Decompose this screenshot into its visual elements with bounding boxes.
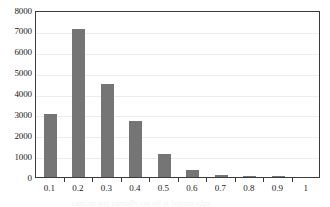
y-axis-tick-label: 0 — [0, 174, 32, 183]
y-axis-tick-label: 3000 — [0, 111, 32, 120]
bar-slot — [36, 10, 65, 177]
bars-layer — [36, 12, 319, 177]
plot-area — [35, 11, 320, 178]
y-axis: 010002000300040005000600070008000 — [0, 0, 32, 207]
x-axis-tick — [292, 178, 293, 182]
x-axis-tick-label: 0.9 — [263, 183, 292, 194]
bar — [72, 29, 85, 177]
y-axis-tick-label: 8000 — [0, 7, 32, 16]
bar-slot — [93, 10, 122, 177]
figure-caption-text: caption text partially cut off at bottom… — [72, 200, 282, 207]
x-axis-tick — [92, 178, 93, 182]
x-axis: 0.10.20.30.40.50.60.70.80.91 — [35, 183, 320, 196]
x-axis-tick — [206, 178, 207, 182]
x-axis-tick-label: 1 — [292, 183, 321, 194]
figure-caption: caption text partially cut off at bottom… — [72, 200, 282, 207]
bar — [129, 121, 142, 177]
bar-slot — [236, 10, 265, 177]
x-axis-tick-label: 0.8 — [235, 183, 264, 194]
x-axis-tick-label: 0.3 — [92, 183, 121, 194]
y-axis-tick-label: 1000 — [0, 153, 32, 162]
x-axis-ticks — [35, 178, 320, 182]
bar — [186, 170, 199, 177]
bar-slot — [293, 10, 322, 177]
bar-slot — [150, 10, 179, 177]
bar — [215, 175, 228, 177]
x-axis-tick — [121, 178, 122, 182]
x-axis-tick-label: 0.6 — [178, 183, 207, 194]
bar — [44, 114, 57, 177]
y-axis-tick-label: 4000 — [0, 90, 32, 99]
bar-slot — [122, 10, 151, 177]
x-axis-tick-label: 0.5 — [149, 183, 178, 194]
y-axis-tick-label: 7000 — [0, 27, 32, 36]
x-axis-tick — [64, 178, 65, 182]
x-axis-tick-label: 0.1 — [35, 183, 64, 194]
bar-slot — [264, 10, 293, 177]
bar — [101, 84, 114, 177]
bar-chart: 010002000300040005000600070008000 0.10.2… — [0, 0, 330, 207]
bar — [272, 176, 285, 177]
y-axis-tick-label: 2000 — [0, 132, 32, 141]
x-axis-tick — [263, 178, 264, 182]
y-axis-tick-label: 5000 — [0, 69, 32, 78]
y-axis-tick-label: 6000 — [0, 48, 32, 57]
bar-slot — [207, 10, 236, 177]
x-axis-tick-label: 0.7 — [206, 183, 235, 194]
bar — [158, 154, 171, 177]
x-axis-tick-label: 0.2 — [64, 183, 93, 194]
bar-slot — [179, 10, 208, 177]
x-axis-tick — [235, 178, 236, 182]
x-axis-tick-label: 0.4 — [121, 183, 150, 194]
x-axis-tick — [178, 178, 179, 182]
x-axis-tick — [149, 178, 150, 182]
bar-slot — [65, 10, 94, 177]
bar — [243, 176, 256, 177]
